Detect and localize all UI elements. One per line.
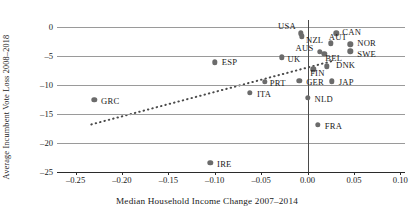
x-tick-label: –0.10 — [205, 175, 224, 185]
point-label-esp: ESP — [222, 57, 237, 67]
point-label-jap: JAP — [339, 77, 354, 87]
data-point-ger[interactable] — [297, 78, 302, 83]
data-point-ire[interactable] — [207, 160, 212, 165]
x-tick-mark — [400, 172, 401, 175]
x-tick-label: 0.10 — [393, 175, 408, 185]
data-point-dnk[interactable] — [324, 64, 329, 69]
y-gridline — [57, 143, 405, 144]
y-tick-label: –5 — [44, 51, 53, 61]
y-tick-label: –25 — [40, 167, 53, 177]
x-tick-mark — [261, 172, 262, 175]
point-label-aus: AUS — [296, 43, 314, 53]
data-point-esp[interactable] — [212, 60, 217, 65]
x-tick-label: –0.25 — [66, 175, 85, 185]
x-tick-mark — [168, 172, 169, 175]
data-point-fra[interactable] — [315, 122, 320, 127]
point-label-aut: AUT — [329, 32, 347, 42]
point-label-uk: UK — [288, 54, 301, 64]
point-label-dnk: DNK — [336, 60, 355, 70]
x-tick-mark — [76, 172, 77, 175]
point-label-nor: NOR — [357, 38, 376, 48]
y-tick-label: –10 — [40, 80, 53, 90]
x-tick-label: –0.05 — [251, 175, 270, 185]
x-tick-label: –0.20 — [112, 175, 131, 185]
data-point-ita[interactable] — [247, 90, 252, 95]
point-label-prt: PRT — [270, 78, 286, 88]
y-gridline — [57, 172, 405, 173]
x-tick-label: 0.00 — [300, 175, 315, 185]
data-point-jap[interactable] — [329, 79, 334, 84]
x-tick-mark — [122, 172, 123, 175]
point-label-ire: IRE — [217, 159, 231, 169]
x-tick-mark — [215, 172, 216, 175]
point-label-swe: SWE — [357, 49, 376, 59]
y-tick-label: –20 — [40, 138, 53, 148]
y-tick-label: –15 — [40, 109, 53, 119]
point-label-ita: ITA — [257, 89, 271, 99]
data-point-nzl[interactable] — [299, 34, 304, 39]
point-label-grc: GRC — [101, 96, 119, 106]
x-tick-mark — [308, 172, 309, 175]
y-tick-label: 0 — [49, 22, 53, 32]
data-point-prt[interactable] — [262, 79, 267, 84]
point-label-usa: USA — [278, 21, 296, 31]
data-point-uk[interactable] — [279, 54, 284, 59]
x-tick-label: –0.15 — [159, 175, 178, 185]
data-point-swe[interactable] — [348, 49, 353, 54]
point-label-ger: GER — [306, 77, 324, 87]
x-tick-label: 0.05 — [346, 175, 361, 185]
data-point-nld[interactable] — [305, 95, 310, 100]
scatter-chart-figure: Average Incumbent Vote Loss 2008–2018 Me… — [0, 0, 414, 218]
x-axis-title: Median Household Income Change 2007–2014 — [0, 196, 414, 206]
y-gridline — [57, 114, 405, 115]
data-point-grc[interactable] — [91, 97, 96, 102]
point-label-nld: NLD — [315, 94, 333, 104]
data-point-nor[interactable] — [348, 42, 353, 47]
x-tick-mark — [354, 172, 355, 175]
plot-area: 0–5–10–15–20–25–0.25–0.20–0.15–0.10–0.05… — [57, 20, 405, 172]
y-axis-title: Average Incumbent Vote Loss 2008–2018 — [0, 14, 14, 200]
point-label-fra: FRA — [325, 121, 342, 131]
